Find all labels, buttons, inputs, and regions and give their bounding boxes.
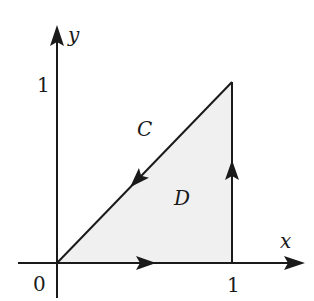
x-axis-label: x [280,229,291,253]
diagram-canvas: y x 0 1 1 C D [0,0,314,301]
y-axis-label: y [67,23,80,47]
region-label: D [173,186,190,210]
x-tick-label: 1 [227,273,240,297]
curve-label: C [137,117,152,141]
y-tick-label: 1 [37,73,50,97]
origin-label: 0 [33,272,46,296]
